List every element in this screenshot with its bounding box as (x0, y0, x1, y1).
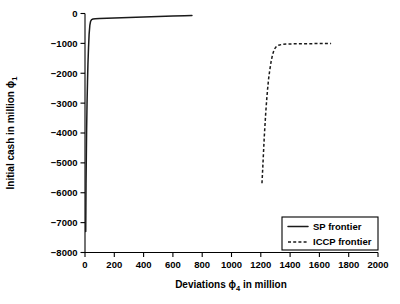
legend-label-iccp-frontier: ICCP frontier (313, 236, 372, 247)
y-tick-label: −5000 (51, 157, 78, 168)
x-axis-title-post: in million (240, 279, 287, 290)
y-tick-label: −6000 (51, 187, 78, 198)
x-tick-label: 600 (165, 259, 181, 270)
x-axis-title-pre: Deviations (175, 279, 228, 290)
legend-label-sp-frontier: SP frontier (313, 221, 362, 232)
x-tick-label: 2000 (367, 259, 388, 270)
y-axis-title-sub: 1 (10, 77, 19, 81)
chart-figure: 0200400600800100012001400160018002000 −8… (0, 0, 400, 304)
frontier-line-chart: 0200400600800100012001400160018002000 −8… (0, 0, 400, 304)
y-tick-label: −1000 (51, 38, 78, 49)
y-tick-label: −3000 (51, 98, 78, 109)
y-tick-label: 0 (72, 8, 77, 19)
x-tick-label: 1400 (280, 259, 301, 270)
x-tick-label: 200 (106, 259, 122, 270)
y-axis-title-pre: Initial cash in million (5, 88, 16, 189)
y-tick-label: −2000 (51, 68, 78, 79)
x-tick-label: 1000 (221, 259, 242, 270)
x-tick-label: 1600 (309, 259, 330, 270)
x-tick-label: 0 (82, 259, 87, 270)
y-tick-label: −7000 (51, 217, 78, 228)
y-tick-label: −8000 (51, 247, 78, 258)
chart-legend: SP frontierICCP frontier (282, 217, 378, 250)
x-tick-label: 1800 (338, 259, 359, 270)
x-tick-label: 800 (194, 259, 210, 270)
x-tick-label: 1200 (250, 259, 271, 270)
x-tick-label: 400 (136, 259, 152, 270)
y-tick-label: −4000 (51, 127, 78, 138)
